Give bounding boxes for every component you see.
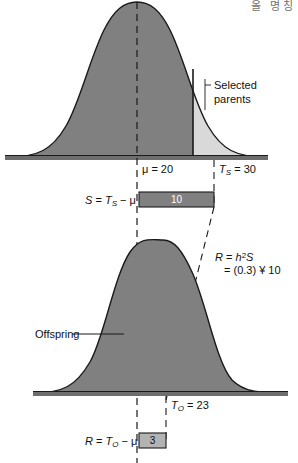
s-minus-mu: − μ: [117, 194, 136, 206]
s-equals: =: [92, 194, 105, 206]
ts-value: 30: [244, 163, 256, 175]
figure-canvas: [0, 0, 298, 463]
ts-axis-label: TS = 30: [219, 163, 256, 179]
ts-equals: =: [231, 163, 244, 175]
response-bar-formula: R = TO − μ: [85, 435, 137, 451]
r-symbol: R: [215, 251, 223, 263]
selection-response-figure: 올 명칭 Selected parents μ = 20 TS = 30 S =…: [0, 0, 298, 463]
response-equation-line2: = (0.3) ¥ 10: [224, 264, 281, 276]
response-bar-value: 3: [139, 434, 166, 447]
selected-parents-leader: [205, 79, 211, 85]
s-in-equation: S: [246, 251, 253, 263]
response-equation-line1: R = h2S: [215, 250, 253, 263]
to-equals: =: [184, 399, 197, 411]
to-value: 23: [197, 399, 209, 411]
offspring-label: Offspring: [35, 328, 79, 340]
r-equals: =: [223, 251, 236, 263]
selected-parents-label-line2: parents: [214, 93, 251, 105]
r-bar-minus-mu: − μ: [118, 435, 137, 447]
selection-differential-value: 10: [139, 193, 214, 206]
ts-symbol: T: [219, 163, 226, 175]
to-axis-label: TO = 23: [171, 399, 209, 415]
selection-differential-formula: S = TS − μ: [85, 194, 136, 210]
page-corner-text: 올 명칭: [251, 0, 297, 13]
mu-axis-label-text: μ = 20: [142, 163, 173, 175]
r-bar-equals: =: [93, 435, 106, 447]
to-symbol: T: [171, 399, 178, 411]
r-bar-symbol: R: [85, 435, 93, 447]
mu-axis-label: μ = 20: [142, 163, 173, 175]
s-t-symbol: T: [105, 194, 112, 206]
selected-parents-label-line1: Selected: [214, 79, 257, 91]
